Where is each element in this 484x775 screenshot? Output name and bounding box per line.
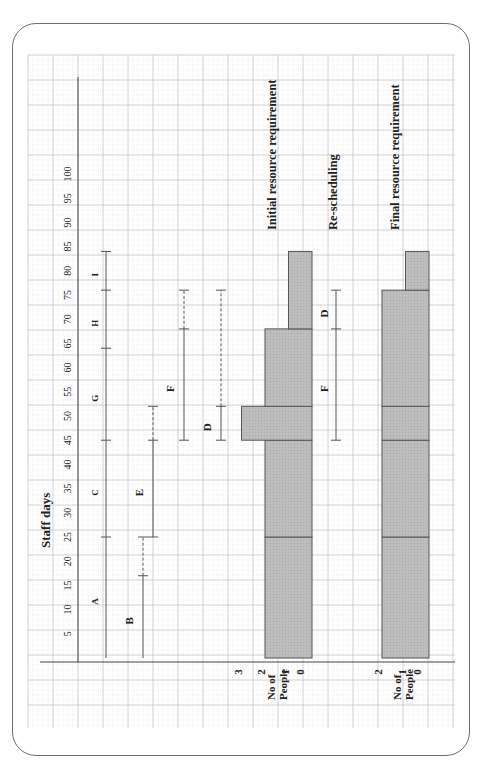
histogram-bar — [382, 290, 429, 406]
section-titles: Staff days Initial resource requirement … — [38, 79, 415, 700]
axis-tick-label: 25 — [62, 532, 73, 542]
initial-resource-histogram: 0123 — [232, 251, 313, 674]
axis-tick-label: 65 — [62, 338, 73, 348]
people-tick-2: 2 — [372, 669, 384, 675]
histogram-bar — [265, 537, 312, 658]
gantt-chart: 5101520253035404550556065707580859095100… — [0, 0, 484, 775]
activity-label-A: A — [90, 598, 100, 605]
ylabel-initial-people: People — [277, 669, 289, 700]
people-tick-0: 0 — [294, 669, 306, 675]
histogram-bar — [242, 406, 313, 440]
histogram-bar — [382, 537, 429, 658]
rescheduling-title: Re-scheduling — [326, 154, 340, 230]
activity-label-D: D — [201, 423, 213, 431]
rescheduling-bars: FD — [318, 290, 341, 440]
axis-tick-label: 20 — [62, 556, 73, 566]
final-title: Final resource requirement — [388, 84, 402, 230]
axis-title: Staff days — [38, 493, 53, 548]
histogram-bar — [289, 251, 313, 328]
activity-label-G: G — [90, 395, 100, 402]
axis-tick-label: 30 — [62, 508, 73, 518]
axis-tick-label: 100 — [62, 167, 73, 182]
people-tick-2: 2 — [255, 669, 267, 675]
axis-tick-label: 15 — [62, 580, 73, 590]
axis-tick-label: 55 — [62, 387, 73, 397]
axis-tick-label: 10 — [62, 605, 73, 615]
resched-label-F: F — [318, 385, 330, 392]
people-tick-3: 3 — [232, 669, 244, 675]
ylabel-initial-noof: No of — [265, 674, 277, 700]
axis-tick-label: 85 — [62, 242, 73, 252]
axis-tick-label: 80 — [62, 266, 73, 276]
axis-tick-label: 95 — [62, 193, 73, 203]
axis-tick-label: 70 — [62, 314, 73, 324]
axis-tick-label: 45 — [62, 435, 73, 445]
initial-title: Initial resource requirement — [265, 79, 279, 230]
histogram-bar — [382, 440, 429, 537]
axis-tick-label: 40 — [62, 459, 73, 469]
resched-label-D: D — [318, 309, 330, 317]
activity-label-C: C — [90, 489, 100, 496]
axis-tick-label: 90 — [62, 217, 73, 227]
histogram-bar — [265, 440, 312, 537]
axis-tick-label: 35 — [62, 484, 73, 494]
activity-label-I: I — [90, 273, 100, 277]
figure: 5101520253035404550556065707580859095100… — [0, 0, 484, 775]
activity-label-H: H — [90, 320, 100, 327]
ylabel-final-people: People — [403, 669, 415, 700]
activity-label-F: F — [164, 385, 176, 392]
histogram-bar — [265, 329, 312, 406]
ylabel-final-noof: No of — [391, 674, 403, 700]
activity-label-B: B — [123, 617, 135, 625]
histogram-bar — [382, 406, 429, 440]
axis-tick-label: 60 — [62, 363, 73, 373]
axis-tick-label: 75 — [62, 290, 73, 300]
axis-tick-label: 50 — [62, 411, 73, 421]
activity-label-E: E — [133, 489, 145, 496]
histogram-bar — [406, 251, 430, 290]
axis-tick-label: 5 — [62, 631, 73, 636]
